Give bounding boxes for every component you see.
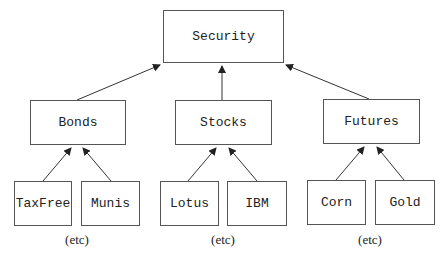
node-gold: Gold <box>375 180 435 225</box>
etc-label-bonds: (etc) <box>47 232 107 248</box>
node-corn: Corn <box>307 180 366 225</box>
node-futures: Futures <box>323 99 420 144</box>
node-bonds: Bonds <box>30 100 126 145</box>
class-hierarchy-diagram: Security Bonds Stocks Futures TaxFree Mu… <box>0 0 446 259</box>
node-security: Security <box>163 10 284 63</box>
node-munis: Munis <box>81 181 140 226</box>
etc-label-stocks: (etc) <box>193 232 253 248</box>
node-lotus: Lotus <box>160 181 219 226</box>
node-taxfree: TaxFree <box>14 181 72 226</box>
etc-label-futures: (etc) <box>340 232 400 248</box>
node-stocks: Stocks <box>175 100 272 145</box>
node-ibm: IBM <box>227 181 287 226</box>
